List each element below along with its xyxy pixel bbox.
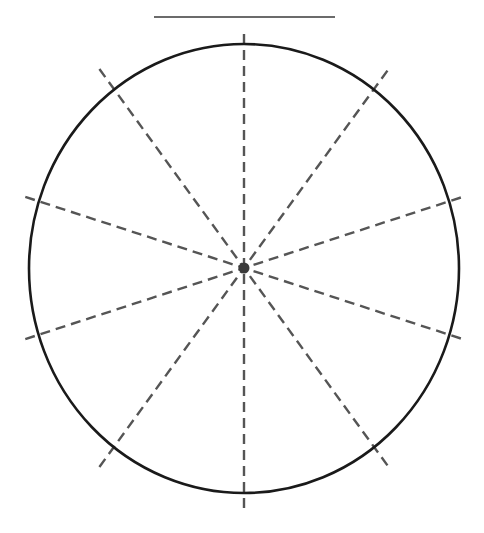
- center-point: [239, 263, 250, 274]
- radial-circle-diagram: [0, 0, 484, 533]
- diagram-canvas: [0, 0, 484, 533]
